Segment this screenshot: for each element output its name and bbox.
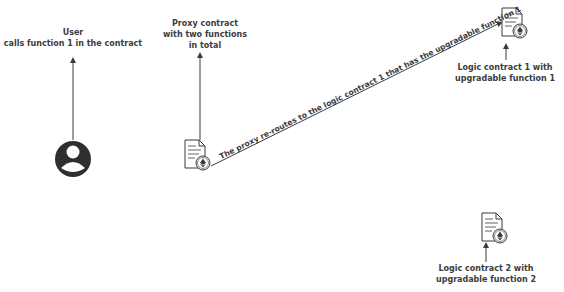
proxy-contract-icon: [185, 140, 210, 170]
user-label: User calls function 1 in the contract: [0, 27, 146, 49]
logic1-label: Logic contract 1 with upgradable functio…: [450, 62, 560, 84]
proxy-label-line3: in total: [150, 40, 260, 51]
proxy-label-line1: Proxy contract: [150, 18, 260, 29]
logic1-label-line1: Logic contract 1 with: [450, 62, 560, 73]
logic2-label-line1: Logic contract 2 with: [431, 263, 541, 274]
user-subtitle: calls function 1 in the contract: [0, 38, 146, 49]
logic1-label-line2: upgradable function 1: [450, 73, 560, 84]
proxy-label: Proxy contract with two functions in tot…: [150, 18, 260, 51]
logic2-label: Logic contract 2 with upgradable functio…: [431, 263, 541, 285]
proxy-label-line2: with two functions: [150, 29, 260, 40]
user-title: User: [0, 27, 146, 38]
logic-contract-2-icon: [482, 213, 507, 243]
logic2-label-line2: upgradable function 2: [431, 274, 541, 285]
user-avatar-icon: [55, 141, 91, 177]
